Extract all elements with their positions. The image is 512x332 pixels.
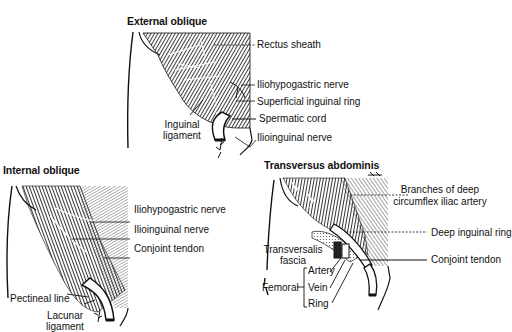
panel-external-oblique: External oblique Rectus sheath (0, 0, 482, 160)
label-conjoint-tendon: Conjoint tendon (134, 243, 204, 254)
label-femoral: Femoral (262, 282, 299, 293)
label-lacunar-ligament-2: ligament (42, 321, 88, 332)
label-lacunar-ligament-1: Lacunar (42, 310, 88, 321)
label-branches-deep-circumflex-1: Branches of deep (380, 184, 500, 195)
label-conjoint-tendon: Conjoint tendon (431, 254, 501, 265)
label-femoral-artery: Artery (308, 265, 335, 276)
panel-internal-oblique: Internal oblique Il (0, 160, 250, 318)
label-iliohypogastric-nerve: Iliohypogastric nerve (134, 204, 226, 215)
panel-transversus-abdominis: Transversus abdominis (250, 160, 482, 318)
label-inguinal-ligament-1: Inguinal (160, 119, 204, 130)
label-transversalis-fascia-1: Transversalis (262, 244, 324, 255)
label-rectus-sheath: Rectus sheath (257, 39, 321, 50)
external-oblique-illustration (0, 0, 482, 160)
label-iliohypogastric-nerve: Iliohypogastric nerve (257, 79, 349, 90)
label-femoral-vein: Vein (308, 282, 327, 293)
label-branches-deep-circumflex-2: circumflex iliac artery (380, 196, 500, 207)
label-superficial-inguinal-ring: Superficial inguinal ring (257, 96, 360, 107)
label-deep-inguinal-ring: Deep inguinal ring (431, 227, 512, 238)
label-pectineal-line: Pectineal line (10, 293, 69, 304)
label-ilioinguinal-nerve: Ilioinguinal nerve (134, 224, 209, 235)
label-inguinal-ligament-2: ligament (160, 130, 204, 141)
label-femoral-ring: Ring (308, 298, 329, 309)
label-ilioinguinal-nerve: Ilioinguinal nerve (257, 132, 332, 143)
label-spermatic-cord: Spermatic cord (259, 113, 326, 124)
